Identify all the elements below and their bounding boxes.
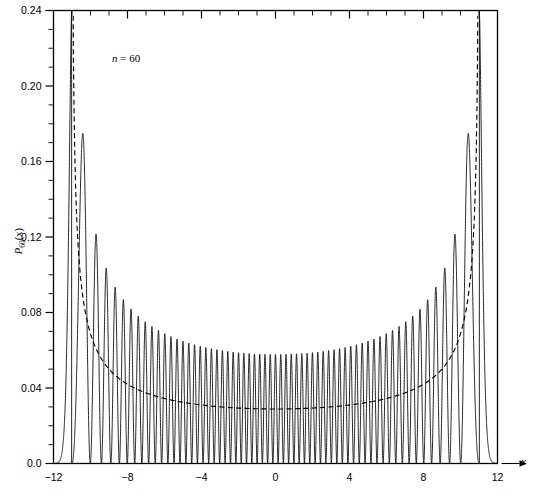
curve-layer <box>54 11 498 464</box>
x-axis-title: x <box>521 455 526 467</box>
x-tick-label: −12 <box>45 471 63 483</box>
x-tick-label: 8 <box>421 471 427 483</box>
y-tick-label: 0.0 <box>27 457 42 469</box>
y-axis-label-symbol: P <box>13 248 24 254</box>
plot-svg: −12−8−4048120.00.040.080.120.160.200.24 <box>0 0 535 495</box>
x-tick-label: 12 <box>492 471 504 483</box>
x-tick-label: −4 <box>196 471 208 483</box>
y-tick-label: 0.24 <box>21 4 42 16</box>
figure-container: −12−8−4048120.00.040.080.120.160.200.24 … <box>0 0 535 495</box>
y-axis-label: P60(x) <box>2 188 32 308</box>
y-axis-label-argument: (x) <box>13 228 24 240</box>
x-tick-label: 0 <box>273 471 279 483</box>
y-tick-label: 0.16 <box>21 155 42 167</box>
annotation-n-value: = 60 <box>118 52 141 64</box>
quantum-probability-density-curve <box>54 11 498 464</box>
y-tick-label: 0.20 <box>21 80 42 92</box>
x-tick-label: −8 <box>122 471 134 483</box>
x-tick-label: 4 <box>347 471 353 483</box>
tick-label-layer: −12−8−4048120.00.040.080.120.160.200.24 <box>21 4 503 482</box>
annotation-quantum-number: n = 60 <box>112 52 140 64</box>
y-tick-label: 0.04 <box>21 382 42 394</box>
plot-frame <box>54 11 498 464</box>
y-axis-label-subscript: 60 <box>18 240 27 248</box>
classical-distribution-curve <box>73 16 478 409</box>
